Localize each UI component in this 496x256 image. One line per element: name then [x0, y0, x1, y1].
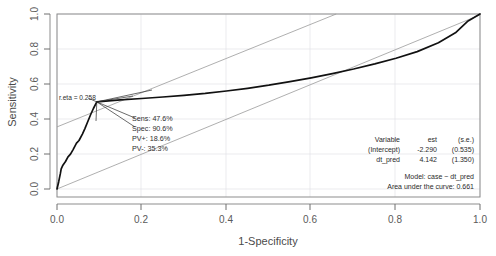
- plot-background: [0, 0, 496, 256]
- x-tick-label: 1.0: [473, 214, 487, 225]
- y-tick-label: 0.4: [29, 112, 40, 126]
- table-row-est: 4.142: [419, 156, 437, 163]
- auc-label: Area under the curve: 0.661: [387, 183, 474, 190]
- table-header-est: est: [428, 136, 437, 143]
- table-header-variable: Variable: [375, 136, 400, 143]
- table-row-est: -2.290: [417, 146, 437, 153]
- x-tick-label: 0.6: [303, 214, 317, 225]
- x-axis-title: 1-Specificity: [238, 235, 298, 247]
- y-axis-title: Sensitivity: [6, 77, 18, 127]
- table-row-variable: (Intercept): [368, 146, 400, 154]
- roc-plot-svg: r.eta = 0.258 Sens: 47.6% Spec: 90.6% PV…: [0, 0, 496, 256]
- model-formula-label: Model: case ~ dt_pred: [405, 173, 475, 181]
- cutoff-label: r.eta = 0.258: [59, 94, 96, 101]
- pv-negative-label: PV-: 35.3%: [132, 144, 169, 153]
- x-tick-label: 0.8: [388, 214, 402, 225]
- y-tick-label: 0.8: [29, 42, 40, 56]
- table-row-variable: dt_pred: [376, 156, 400, 164]
- y-tick-label: 0.2: [29, 147, 40, 161]
- pv-positive-label: PV+: 18.6%: [132, 134, 171, 143]
- operating-point-annotation: Sens: 47.6% Spec: 90.6% PV+: 18.6% PV-: …: [132, 114, 173, 153]
- table-row-se: (0.535): [452, 146, 474, 154]
- table-header-se: (s.e.): [458, 136, 474, 144]
- spec-label: Spec: 90.6%: [132, 124, 173, 133]
- table-row-se: (1.350): [452, 156, 474, 164]
- y-tick-label: 1.0: [29, 7, 40, 21]
- sens-label: Sens: 47.6%: [132, 114, 173, 123]
- y-tick-label: 0.0: [29, 182, 40, 196]
- x-tick-label: 0.0: [50, 214, 64, 225]
- x-tick-label: 0.4: [219, 214, 233, 225]
- roc-curve-figure: r.eta = 0.258 Sens: 47.6% Spec: 90.6% PV…: [0, 0, 496, 256]
- x-tick-label: 0.2: [134, 214, 148, 225]
- y-tick-label: 0.6: [29, 77, 40, 91]
